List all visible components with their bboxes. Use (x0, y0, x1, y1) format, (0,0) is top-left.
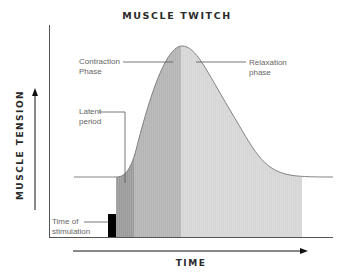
x-arrowhead (300, 248, 308, 254)
y-arrowhead (32, 88, 38, 96)
latent-label: Latent period (79, 107, 101, 127)
x-axis-label: TIME (0, 258, 354, 268)
y-axis-label: MUSCLE TENSION (15, 85, 25, 205)
stimulation-label: Time of stimulation (52, 217, 90, 237)
stimulation-marker (108, 214, 116, 237)
relaxation-label: Relaxation phase (249, 58, 287, 78)
contraction-label: Contraction Phase (79, 57, 120, 77)
